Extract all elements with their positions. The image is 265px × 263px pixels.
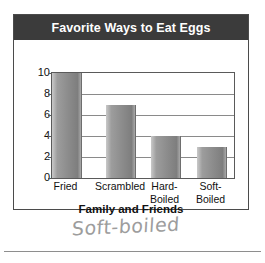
y-axis-tick-labels: 0246810: [30, 72, 50, 177]
bar: [151, 136, 181, 178]
x-axis-category-label: Soft- Boiled: [186, 180, 235, 205]
y-axis-tick-label: 10: [30, 67, 50, 78]
chart-title-bar: Favorite Ways to Eat Eggs: [14, 15, 248, 40]
bottom-divider: [4, 251, 261, 252]
x-axis-category-label: Hard- Boiled: [140, 180, 189, 205]
x-axis-category-label: Fried: [41, 180, 90, 193]
x-axis-category-label: Scrambled: [95, 180, 144, 193]
bar: [106, 105, 136, 179]
y-axis-tick-mark: [48, 178, 52, 179]
handwritten-annotation: Soft-boiled: [71, 213, 180, 240]
y-axis-tick-label: 6: [30, 109, 50, 120]
chart-card: Favorite Ways to Eat Eggs 0246810 FriedS…: [13, 14, 249, 210]
plot-wrapper: 0246810 FriedScrambledHard- BoiledSoft- …: [14, 40, 248, 209]
bar: [52, 73, 82, 178]
y-axis-tick-label: 4: [30, 130, 50, 141]
x-axis-title: Family and Friends: [14, 203, 248, 215]
plot-area: [51, 72, 235, 179]
y-axis-tick-label: 8: [30, 88, 50, 99]
bar: [197, 147, 227, 179]
y-axis-tick-label: 2: [30, 151, 50, 162]
chart-title: Favorite Ways to Eat Eggs: [51, 21, 210, 35]
